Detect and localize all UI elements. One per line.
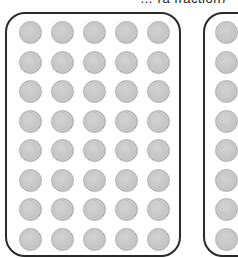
caption-text: … (a fraction) (0, 0, 238, 3)
counter-dot (51, 80, 74, 103)
counter-dot (215, 110, 238, 133)
counter-dot (19, 228, 42, 251)
counter-dot (215, 169, 238, 192)
counter-dot (115, 139, 138, 162)
counter-dot (51, 51, 74, 74)
counter-dot (115, 110, 138, 133)
counter-dot (215, 51, 238, 74)
counter-dot (147, 139, 170, 162)
counter-dot (115, 169, 138, 192)
counter-dot (215, 228, 238, 251)
counter-dot (83, 80, 106, 103)
counter-dot (215, 139, 238, 162)
counter-dot (19, 80, 42, 103)
counter-dot (83, 51, 106, 74)
counter-dot (115, 198, 138, 221)
counter-dot (51, 21, 74, 44)
counter-dot (19, 198, 42, 221)
counter-dot (115, 228, 138, 251)
counter-dot (51, 139, 74, 162)
counter-dot (83, 110, 106, 133)
counter-dot (51, 110, 74, 133)
counter-dot (147, 51, 170, 74)
counter-dot (83, 139, 106, 162)
counter-dot (83, 228, 106, 251)
counter-dot (147, 110, 170, 133)
counter-dot (51, 198, 74, 221)
counter-dot (147, 198, 170, 221)
counter-dot (215, 80, 238, 103)
counter-dot (115, 51, 138, 74)
counter-dot (19, 169, 42, 192)
counter-dot (115, 21, 138, 44)
counter-dot (215, 198, 238, 221)
counter-dot (51, 169, 74, 192)
counter-dot (83, 198, 106, 221)
counter-dot (19, 110, 42, 133)
left-panel (5, 12, 181, 257)
counter-dot (215, 21, 238, 44)
counter-dot (51, 228, 74, 251)
counter-dot (19, 21, 42, 44)
counter-dot (147, 169, 170, 192)
counter-dot (147, 80, 170, 103)
counter-dot (115, 80, 138, 103)
counter-dot (147, 228, 170, 251)
counter-dot (147, 21, 170, 44)
right-panel (203, 12, 238, 257)
counter-dot (19, 139, 42, 162)
counter-dot (83, 21, 106, 44)
counter-dot (83, 169, 106, 192)
counter-dot (19, 51, 42, 74)
